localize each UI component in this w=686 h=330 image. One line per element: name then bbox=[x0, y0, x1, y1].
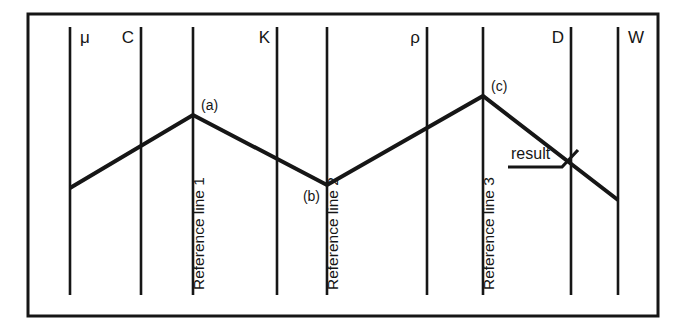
axis-label-C: C bbox=[122, 28, 134, 47]
point-label-b: (b) bbox=[303, 188, 320, 204]
axis-label-K: K bbox=[259, 28, 271, 47]
point-label-a: (a) bbox=[201, 97, 218, 113]
nomogram-canvas: μ C K ρ D W Reference line 1 Reference l… bbox=[0, 0, 686, 330]
reference-labels-group: Reference line 1 Reference line 2 Refere… bbox=[190, 177, 497, 290]
nomogram-figure: μ C K ρ D W Reference line 1 Reference l… bbox=[0, 0, 686, 330]
axis-label-mu: μ bbox=[80, 28, 90, 47]
reference-line-1-label: Reference line 1 bbox=[190, 177, 207, 290]
reference-line-2-label: Reference line 2 bbox=[324, 177, 341, 290]
reference-line-3-label: Reference line 3 bbox=[480, 177, 497, 290]
point-label-c: (c) bbox=[491, 78, 507, 94]
axis-label-W: W bbox=[628, 28, 644, 47]
axis-label-D: D bbox=[552, 28, 564, 47]
axis-label-rho: ρ bbox=[410, 28, 420, 47]
result-annotation-text: result bbox=[511, 145, 551, 162]
axis-labels-group: μ C K ρ D W bbox=[80, 28, 644, 47]
result-callout: result bbox=[508, 145, 578, 167]
